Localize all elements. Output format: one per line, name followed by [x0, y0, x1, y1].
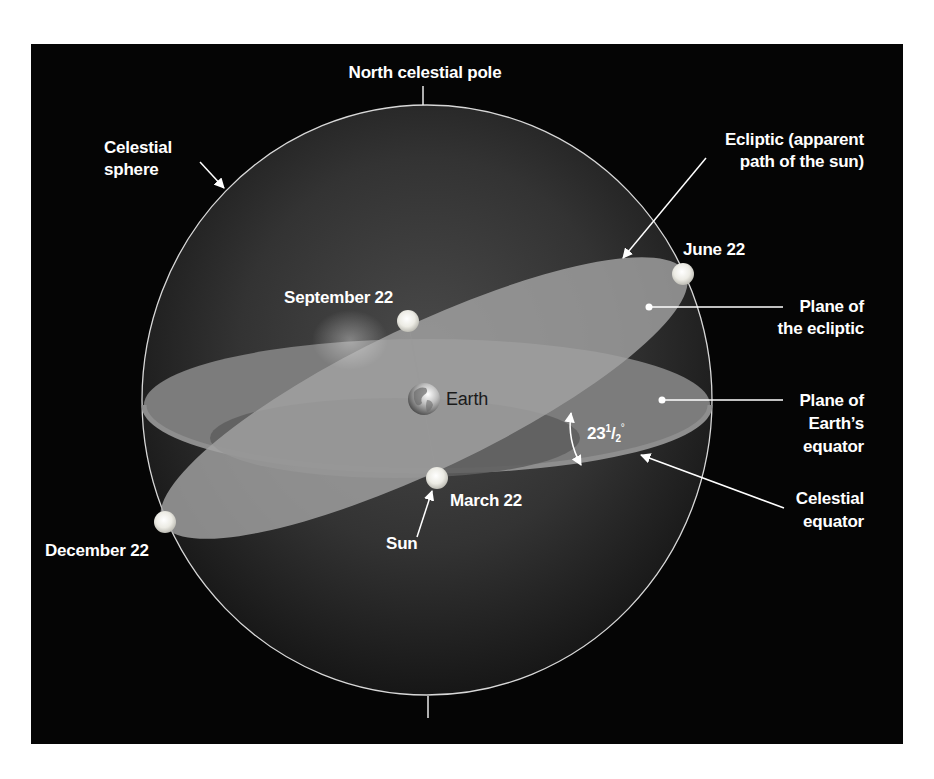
sun-march-22 — [426, 467, 448, 489]
sun-december-22 — [154, 511, 176, 533]
label-june-22: June 22 — [683, 240, 745, 260]
sun-glow — [312, 310, 388, 370]
label-celestial-equator-2: equator — [760, 512, 864, 532]
label-plane-equator-3: equator — [760, 437, 864, 457]
label-september-22: September 22 — [284, 288, 393, 308]
label-plane-ecliptic-1: Plane of — [730, 297, 864, 317]
sun-june-22 — [672, 263, 694, 285]
label-celestial-sphere-2: sphere — [104, 160, 159, 180]
label-sun: Sun — [386, 534, 418, 554]
label-march-22: March 22 — [450, 491, 522, 511]
label-north-celestial-pole: North celestial pole — [300, 63, 550, 83]
sun-september-22 — [397, 310, 419, 332]
angle-whole: 23 — [587, 424, 606, 443]
label-december-22: December 22 — [45, 541, 149, 561]
label-plane-equator-2: Earth’s — [760, 414, 864, 434]
earth-globe-icon — [408, 383, 440, 415]
degree-symbol: ° — [621, 422, 625, 433]
angle-denominator: 2 — [615, 433, 620, 444]
label-celestial-sphere-1: Celestial — [104, 138, 172, 158]
label-ecliptic-1: Ecliptic (apparent — [660, 130, 864, 150]
label-ecliptic-2: path of the sun) — [660, 152, 864, 172]
label-plane-ecliptic-2: the ecliptic — [730, 319, 864, 339]
celestial-sphere-diagram: North celestial pole Celestial sphere Ec… — [0, 0, 934, 779]
label-earth: Earth — [446, 389, 488, 409]
label-obliquity-angle: 231/2° — [587, 418, 625, 449]
label-celestial-equator-1: Celestial — [760, 489, 864, 509]
label-plane-equator-1: Plane of — [760, 391, 864, 411]
